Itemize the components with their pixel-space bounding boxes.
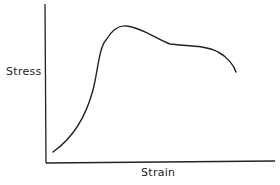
y-axis-label: Stress (6, 65, 42, 78)
x-axis (46, 161, 275, 163)
y-axis (45, 4, 46, 163)
x-axis-label: Strain (141, 166, 175, 179)
stress-strain-chart (0, 0, 280, 185)
stress-strain-curve (53, 26, 236, 152)
